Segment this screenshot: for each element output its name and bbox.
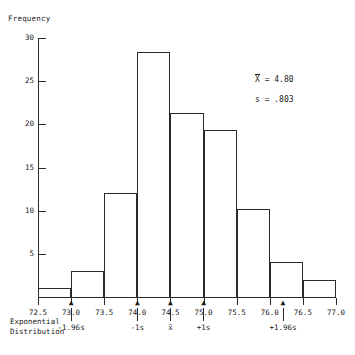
statistics-annotation: X = 4.80 s = .803 <box>255 70 294 110</box>
y-tick-mark <box>39 211 46 212</box>
x-tick-mark <box>237 298 238 305</box>
mean-value: = 4.80 <box>265 75 294 84</box>
histogram-bar <box>303 280 336 297</box>
sigma-marker: ▲+1s <box>174 299 234 332</box>
y-tick-label: 25 <box>25 76 34 85</box>
histogram-figure: Frequency 51015202530 72.573.073.574.074… <box>0 0 355 355</box>
mean-symbol: X <box>255 74 260 84</box>
marker-label: +1.96s <box>253 323 313 332</box>
marker-arrow-icon: ▲ <box>174 299 234 307</box>
x-tick-mark <box>38 298 39 305</box>
y-axis-title: Frequency <box>8 14 50 23</box>
y-tick-mark <box>39 168 46 169</box>
y-tick-mark <box>39 254 46 255</box>
y-tick-label: 5 <box>29 249 34 258</box>
marker-stem <box>137 308 138 321</box>
x-axis-line <box>38 297 336 298</box>
marker-label: +1s <box>174 323 234 332</box>
marker-arrow-icon: ▲ <box>253 299 313 307</box>
y-tick-label: 10 <box>25 206 34 215</box>
histogram-bar <box>71 271 104 297</box>
marker-stem <box>203 308 204 321</box>
histogram-bar <box>137 52 170 297</box>
x-tick-mark <box>336 298 337 305</box>
marker-stem <box>170 308 171 321</box>
distribution-label-line2: Distribution <box>10 327 64 337</box>
y-tick-label: 15 <box>25 163 34 172</box>
y-tick-label: 30 <box>25 33 34 42</box>
distribution-label-line1: Exponential <box>10 317 64 327</box>
marker-stem <box>71 308 72 321</box>
histogram-bar <box>204 130 237 297</box>
histogram-bar <box>38 288 71 297</box>
y-tick-mark <box>39 124 46 125</box>
distribution-label: Exponential Distribution <box>10 317 64 336</box>
mean-statistic: X = 4.80 <box>255 70 294 90</box>
marker-arrow-icon: ▲ <box>41 299 101 307</box>
histogram-bar <box>170 113 203 297</box>
sigma-marker: ▲+1.96s <box>253 299 313 332</box>
x-tick-label: 77.0 <box>327 308 345 317</box>
y-tick-label: 20 <box>25 119 34 128</box>
sd-statistic: s = .803 <box>255 90 294 110</box>
x-tick-mark <box>104 298 105 305</box>
y-tick-mark <box>39 38 46 39</box>
histogram-bar <box>270 262 303 297</box>
y-tick-mark <box>39 81 46 82</box>
histogram-bar <box>104 193 137 297</box>
marker-stem <box>283 308 284 321</box>
histogram-bar <box>237 209 270 297</box>
